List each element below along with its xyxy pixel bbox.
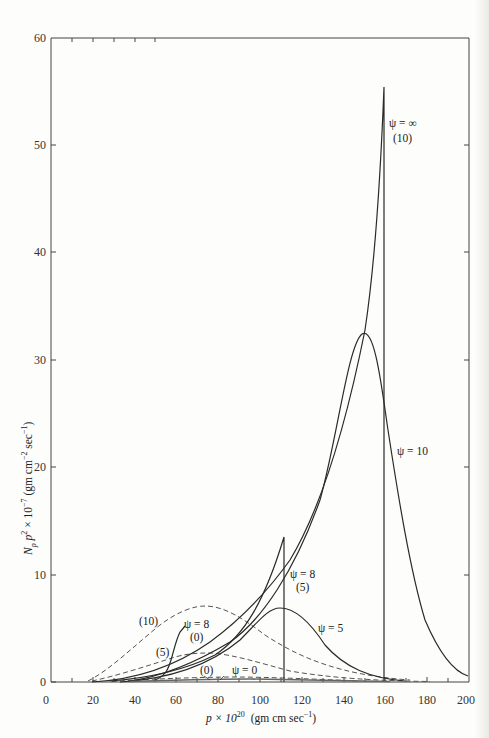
y-label-0: 0 (40, 675, 46, 689)
x-label-80: 80 (212, 693, 224, 707)
x-label-180: 180 (418, 693, 436, 707)
y-label-60: 60 (34, 31, 46, 45)
x-label-0: 0 (43, 693, 49, 707)
y-axis-title: Np p2 × 10−7 (gm cm−2 sec−1) (20, 422, 38, 556)
y-label-10: 10 (34, 568, 46, 582)
label-dashed-10: (10) (139, 615, 158, 628)
label-psi-0: ψ = 0 (232, 664, 257, 677)
x-label-140: 140 (335, 693, 353, 707)
label-psi-8-5-sub: (5) (296, 581, 310, 594)
label-psi-5: ψ = 5 (318, 622, 343, 635)
y-label-30: 30 (34, 353, 46, 367)
label-dashed-0: (0) (200, 664, 214, 677)
label-dashed-5: (5) (156, 646, 170, 659)
label-psi-8-0: ψ = 8 (184, 618, 209, 631)
x-label-160: 160 (376, 693, 394, 707)
x-axis-title: p × 1020(gm cm sec−1) (205, 710, 316, 725)
label-psi-infinity-sub: (10) (393, 132, 412, 145)
y-label-50: 50 (34, 138, 46, 152)
x-label-120: 120 (293, 693, 311, 707)
y-label-40: 40 (34, 245, 46, 259)
y-axis-labels: 0 10 20 30 40 50 60 (34, 31, 46, 689)
chart-canvas: 0 10 20 30 40 50 60 0 20 40 60 80 100 12… (0, 0, 489, 738)
x-axis-labels: 0 20 40 60 80 100 120 140 160 180 200 (43, 693, 475, 707)
series-psi-10 (130, 333, 468, 681)
label-psi-10: ψ = 10 (397, 445, 428, 458)
y-label-20: 20 (34, 460, 46, 474)
series-psi-infinity (92, 87, 384, 682)
x-label-20: 20 (87, 693, 99, 707)
x-axis-ticks (72, 38, 448, 682)
label-psi-8-0-sub: (0) (190, 631, 204, 644)
x-label-200: 200 (457, 693, 475, 707)
series-psi-5 (120, 608, 405, 682)
x-label-40: 40 (129, 693, 141, 707)
label-psi-8-5: ψ = 8 (290, 568, 315, 581)
x-label-100: 100 (251, 693, 269, 707)
x-label-60: 60 (170, 693, 182, 707)
label-psi-infinity: ψ = ∞ (389, 117, 417, 130)
